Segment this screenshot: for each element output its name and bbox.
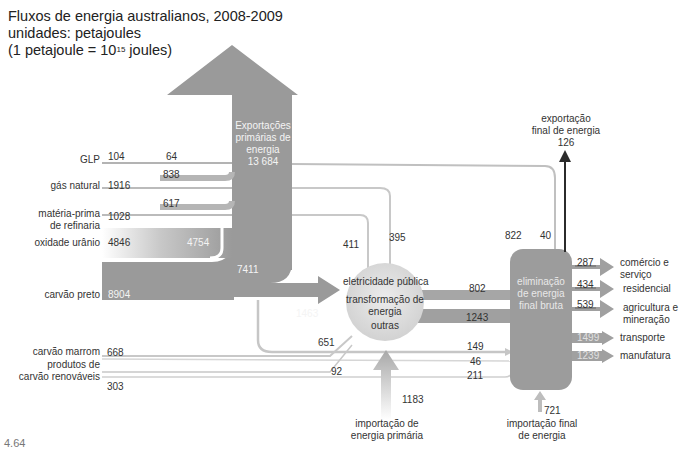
source-glp: GLP bbox=[0, 154, 100, 166]
bypass-149: 149 bbox=[467, 341, 484, 353]
black-coal-transform-value: 1463 bbox=[296, 308, 318, 320]
primary-import-value: 1183 bbox=[402, 394, 424, 406]
source-renewables: produtos de carvão renováveis bbox=[0, 359, 100, 383]
output-label-transport: transporte bbox=[620, 332, 665, 344]
output-value-transport: 1499 bbox=[577, 332, 599, 344]
black-coal-value: 8904 bbox=[108, 289, 130, 301]
bypass-822: 822 bbox=[505, 230, 522, 242]
gas-to-transform bbox=[292, 188, 390, 264]
uranium-export-value: 4754 bbox=[187, 237, 209, 249]
transform-in-395: 395 bbox=[389, 232, 406, 244]
output-label-residential: residencial bbox=[623, 283, 671, 295]
transform-in-411: 411 bbox=[343, 239, 359, 251]
final-energy-box bbox=[510, 249, 572, 390]
transform-output-1243 bbox=[418, 309, 512, 323]
output-label-manufacturing: manufatura bbox=[620, 350, 671, 362]
natural-gas-value: 1916 bbox=[108, 180, 130, 192]
final-import-value: 721 bbox=[544, 405, 561, 417]
final-export-arrowhead bbox=[559, 150, 571, 162]
transform-in-651: 651 bbox=[318, 337, 335, 349]
public-electricity-label: eletricidade pública bbox=[343, 276, 428, 288]
final-import-label: importação final de energia bbox=[500, 418, 584, 442]
source-uranium-oxide: oxidade urânio bbox=[0, 237, 100, 249]
transform-out-802: 802 bbox=[469, 283, 486, 295]
final-export-label: exportação final de energia 126 bbox=[520, 113, 612, 149]
output-label-agriculture: agricultura e mineração bbox=[623, 302, 678, 326]
output-value-agriculture: 539 bbox=[577, 299, 594, 311]
brown-coal-value: 668 bbox=[107, 347, 124, 359]
feedstock-export-value: 617 bbox=[163, 198, 180, 210]
output-value-manufacturing: 1239 bbox=[577, 350, 599, 362]
energy-transformation-label: transformação de energia bbox=[339, 294, 431, 318]
figure-number: 4.64 bbox=[4, 437, 25, 449]
source-natural-gas: gás natural bbox=[0, 180, 100, 192]
sankey-diagram bbox=[0, 0, 687, 457]
output-value-commerce: 287 bbox=[577, 257, 594, 269]
primary-import-label: importação de energia primária bbox=[345, 418, 429, 442]
bypass-40: 40 bbox=[540, 230, 551, 242]
feedstock-value: 1028 bbox=[108, 211, 130, 223]
final-energy-box-label: eliminação de energia final bruta bbox=[510, 276, 572, 312]
bypass-46: 46 bbox=[470, 356, 481, 368]
uranium-value: 4846 bbox=[108, 237, 130, 249]
source-refinery-feedstock: matéria-prima de refinaria bbox=[0, 208, 100, 232]
black-coal-export-value: 7411 bbox=[237, 264, 259, 276]
natural-gas-export-value: 838 bbox=[163, 169, 180, 181]
transform-in-92: 92 bbox=[331, 366, 342, 378]
glp-refinery-value: 64 bbox=[166, 151, 177, 163]
transform-output-802 bbox=[418, 290, 512, 300]
output-label-commerce: comércio e serviço bbox=[620, 257, 669, 281]
renewables-value: 303 bbox=[107, 381, 124, 393]
glp-value: 104 bbox=[108, 151, 125, 163]
primary-export-label: Exportações primárias de energia 13 684 bbox=[218, 120, 308, 168]
source-black-coal: carvão preto bbox=[0, 289, 100, 301]
other-transformation-label: outras bbox=[355, 320, 415, 332]
transform-out-1243: 1243 bbox=[466, 312, 488, 324]
output-value-residential: 434 bbox=[577, 279, 594, 291]
source-brown-coal: carvão marrom bbox=[0, 346, 100, 358]
bypass-211: 211 bbox=[467, 370, 483, 382]
